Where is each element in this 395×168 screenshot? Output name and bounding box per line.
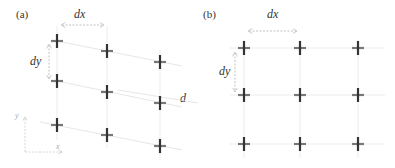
axis-x-label: x bbox=[55, 142, 60, 151]
panel-b-label: (b) bbox=[203, 8, 216, 21]
cross-marker-icon bbox=[51, 74, 63, 88]
panel-a-row-lines bbox=[40, 41, 198, 150]
cross-marker-icon bbox=[101, 128, 113, 142]
cross-marker-icon bbox=[352, 41, 364, 55]
panel-a-axes: y x bbox=[14, 111, 62, 152]
cross-marker-icon bbox=[154, 55, 166, 69]
panel-b-grid-lines bbox=[230, 40, 385, 158]
cross-marker-icon bbox=[238, 137, 250, 151]
cross-marker-icon bbox=[101, 85, 113, 99]
panel-b: (b) dx dy bbox=[203, 7, 385, 158]
cross-marker-icon bbox=[352, 137, 364, 151]
panel-a-markers bbox=[51, 34, 166, 153]
cross-marker-icon bbox=[101, 44, 113, 58]
cross-marker-icon bbox=[51, 34, 63, 48]
cross-marker-icon bbox=[238, 88, 250, 102]
panel-a-dx-label: dx bbox=[74, 7, 86, 21]
figure-canvas: (a) dx dy d bbox=[0, 0, 395, 168]
panel-a-label: (a) bbox=[16, 8, 29, 21]
panel-b-dy-label: dy bbox=[219, 64, 231, 78]
cross-marker-icon bbox=[294, 137, 306, 151]
cross-marker-icon bbox=[352, 88, 364, 102]
cross-marker-icon bbox=[294, 41, 306, 55]
cross-marker-icon bbox=[154, 139, 166, 153]
panel-a-dy-label: dy bbox=[30, 54, 42, 68]
panel-b-dx-label: dx bbox=[267, 7, 279, 21]
panel-a-d-label: d bbox=[180, 91, 187, 105]
panel-a: (a) dx dy d bbox=[14, 7, 198, 160]
cross-marker-icon bbox=[51, 118, 63, 132]
cross-marker-icon bbox=[294, 88, 306, 102]
axis-y-label: y bbox=[14, 111, 19, 120]
panel-b-markers bbox=[238, 41, 364, 151]
cross-marker-icon bbox=[154, 96, 166, 110]
cross-marker-icon bbox=[238, 41, 250, 55]
